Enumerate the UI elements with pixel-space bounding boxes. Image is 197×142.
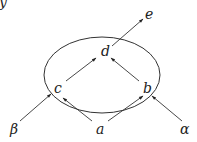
edge-b-d bbox=[111, 58, 139, 81]
edge-d-e bbox=[112, 19, 143, 46]
node-beta: β bbox=[9, 121, 18, 137]
diagram-canvas: y d e c b a β α bbox=[0, 0, 197, 142]
node-e: e bbox=[145, 6, 153, 22]
node-alpha: α bbox=[180, 121, 190, 137]
edge-alpha-b bbox=[152, 96, 182, 121]
node-d: d bbox=[101, 43, 110, 59]
node-c: c bbox=[54, 80, 62, 96]
edge-beta-c bbox=[20, 94, 51, 121]
edge-a-c bbox=[63, 98, 92, 121]
node-a: a bbox=[96, 121, 104, 137]
corner-glyph: y bbox=[0, 0, 8, 10]
edge-a-b bbox=[108, 96, 143, 121]
node-b: b bbox=[143, 80, 152, 96]
edge-c-d bbox=[66, 58, 96, 81]
